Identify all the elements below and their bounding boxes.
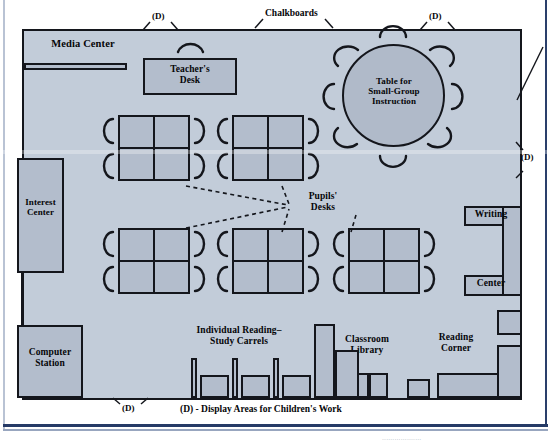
- chalkboards-label: Chalkboards: [265, 8, 318, 18]
- reading-corner-shelf-small-a: [407, 379, 430, 398]
- desk-divider-horizontal: [120, 147, 188, 149]
- display-label-bottom: (D): [122, 403, 135, 413]
- display-label-right: (D): [521, 152, 534, 162]
- reading-corner-shelf-horizontal: [437, 373, 499, 398]
- desk-divider-horizontal: [120, 260, 188, 262]
- desk-cluster-5: [348, 228, 420, 294]
- carrel-divider-1: [191, 358, 197, 398]
- interest-center-label: Interest Center: [16, 197, 65, 217]
- writing-center-bottom-label: Center: [464, 278, 518, 289]
- carrel-desk-4: [335, 350, 359, 398]
- library-shelf-b: [369, 373, 388, 398]
- teachers-desk-label: Teacher's Desk: [143, 64, 237, 85]
- reading-corner-shelf-vertical: [497, 345, 522, 398]
- media-center-label: Media Center: [28, 38, 138, 50]
- small-group-table-label: Table for Small-Group Instruction: [347, 76, 441, 106]
- study-carrels-label: Individual Reading– Study Carrels: [181, 325, 297, 346]
- desk-divider-horizontal: [234, 260, 302, 262]
- writing-center-top-label: Writing: [464, 209, 518, 220]
- media-center-shelf: [24, 63, 127, 70]
- desk-cluster-3: [118, 228, 190, 294]
- wall-segment-left: [21, 273, 24, 325]
- page-caption-faded: ...................: [382, 433, 558, 445]
- desk-divider-horizontal: [350, 260, 418, 262]
- page-rule-right: [545, 0, 547, 427]
- page-rule-bottom-shadow: [3, 429, 548, 431]
- carrel-desk-3: [282, 375, 311, 398]
- pupils-desks-label: Pupils' Desks: [294, 191, 352, 212]
- carrel-desk-2: [241, 375, 270, 398]
- desk-cluster-2: [232, 115, 304, 181]
- display-areas-legend: (D) - Display Areas for Children's Work: [180, 404, 342, 414]
- carrel-tall-panel: [314, 324, 335, 398]
- floor-plan-page: ................... Media Center Teacher…: [0, 0, 560, 445]
- tick-chalkboards-left: [255, 19, 263, 28]
- carrel-divider-2: [232, 358, 238, 398]
- reading-corner-shelf-upper: [497, 310, 522, 335]
- desk-divider-horizontal: [234, 147, 302, 149]
- tick-chalkboards-right: [325, 19, 333, 28]
- display-label-top-right: (D): [429, 11, 442, 21]
- carrel-desk-1: [200, 375, 229, 398]
- carrel-divider-3: [273, 358, 279, 398]
- desk-cluster-1: [118, 115, 190, 181]
- reading-corner-label: Reading Corner: [421, 332, 491, 353]
- computer-station-label: Computer Station: [16, 347, 84, 368]
- page-rule-bottom: [3, 424, 548, 427]
- page-rule-left: [3, 0, 5, 430]
- desk-cluster-4: [232, 228, 304, 294]
- display-label-top-left: (D): [152, 11, 165, 21]
